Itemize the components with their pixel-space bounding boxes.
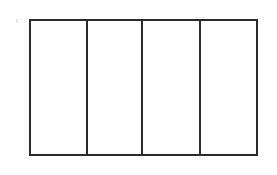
column-cell-4: [201, 21, 257, 154]
column-cell-1: [31, 21, 88, 154]
scan-artifact-speck: [16, 19, 18, 23]
column-cell-2: [88, 21, 144, 154]
diagram-canvas: [0, 0, 277, 175]
rectangle-outline: [29, 19, 258, 156]
column-cell-3: [143, 21, 201, 154]
